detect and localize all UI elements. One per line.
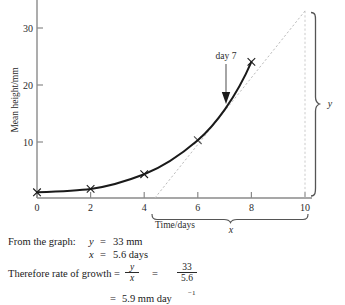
fraction1-numerator: y	[124, 262, 140, 272]
therefore-rate-label: Therefore rate of growth =	[8, 268, 120, 279]
brace-y-vertical	[311, 13, 320, 197]
x-equals-sign: =	[100, 249, 106, 260]
x-variable: x	[89, 249, 94, 260]
brace-y-label: y	[327, 98, 333, 109]
data-marker-day8	[248, 58, 256, 66]
working-block: From the graph: y = 33 mm x = 5.6 days T…	[0, 236, 345, 305]
tangent-line	[155, 11, 305, 198]
day-7-arrow-icon	[222, 64, 230, 104]
fraction2-numerator: 33	[176, 262, 198, 272]
x-ticks-group: 0 2 4 6 8 10	[35, 192, 311, 213]
middle-equals-sign: =	[152, 268, 158, 279]
fraction-33-over-5point6: 33 5.6	[176, 262, 198, 283]
y-value: 33 mm	[113, 236, 142, 247]
brace-x-label: x	[228, 224, 234, 235]
x-axis-title: Time/days	[155, 220, 195, 230]
axes-group	[37, 0, 312, 198]
x-tick-label-0: 0	[35, 202, 40, 213]
y-equals-sign: =	[100, 236, 106, 247]
y-axis-title: Mean height/mm	[10, 67, 20, 133]
y-tick-label-20: 20	[23, 80, 33, 91]
data-marker-day6	[194, 136, 202, 144]
x-tick-label-2: 2	[88, 202, 93, 213]
fraction1-denominator: x	[124, 273, 140, 283]
day-7-label: day 7	[216, 51, 237, 61]
data-markers-group	[33, 58, 255, 196]
from-the-graph-label: From the graph:	[8, 236, 76, 247]
growth-curve	[37, 62, 251, 192]
x-tick-label-10: 10	[300, 202, 310, 213]
fraction-y-over-x: y x	[124, 262, 140, 283]
y-tick-label-30: 30	[23, 23, 33, 34]
growth-curve-figure: 30 20 10 0 2 4 6 8 10 Mean height/mm Tim…	[0, 0, 345, 305]
y-ticks-group: 30 20 10	[23, 23, 43, 148]
y-tick-label-10: 10	[23, 137, 33, 148]
x-tick-label-4: 4	[142, 202, 147, 213]
result-equals-sign: =	[110, 293, 116, 304]
fraction2-denominator: 5.6	[176, 273, 198, 283]
x-tick-label-8: 8	[249, 202, 254, 213]
x-tick-label-6: 6	[195, 202, 200, 213]
x-value: 5.6 days	[113, 249, 148, 260]
y-variable: y	[89, 236, 94, 247]
result-value: 5.9 mm day	[122, 293, 172, 304]
result-exponent: −1	[188, 289, 195, 297]
